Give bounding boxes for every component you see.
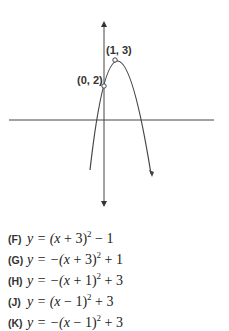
vertex-label: (1, 3) [106, 44, 132, 56]
answer-choices: (F) y = (x + 3)2 − 1 (G) y = −(x + 3)2 +… [8, 228, 123, 331]
choice-letter: (J) [8, 296, 27, 308]
choice-equation: y = −(x + 3)2 + 1 [27, 252, 123, 268]
choice-equation: y = (x + 3)2 − 1 [27, 231, 114, 247]
choice-k[interactable]: (K) y = −(x − 1)2 + 3 [8, 312, 123, 331]
choice-letter: (G) [8, 254, 27, 266]
choice-letter: (K) [8, 317, 27, 329]
parabola-graph [0, 0, 229, 225]
curve-arrow-icon [149, 170, 154, 177]
choice-equation: y = −(x − 1)2 + 3 [27, 315, 123, 331]
choice-h[interactable]: (H) y = −(x + 1)2 + 3 [8, 270, 123, 291]
choice-letter: (H) [8, 275, 27, 287]
choice-f[interactable]: (F) y = (x + 3)2 − 1 [8, 228, 123, 249]
y-intercept-label: (0, 2) [77, 74, 103, 86]
choice-equation: y = −(x + 1)2 + 3 [27, 273, 123, 289]
choice-g[interactable]: (G) y = −(x + 3)2 + 1 [8, 249, 123, 270]
choice-letter: (F) [8, 233, 27, 245]
choice-j[interactable]: (J) y = (x − 1)2 + 3 [8, 291, 123, 312]
choice-equation: y = (x − 1)2 + 3 [27, 294, 114, 310]
vertex-point [113, 58, 117, 62]
